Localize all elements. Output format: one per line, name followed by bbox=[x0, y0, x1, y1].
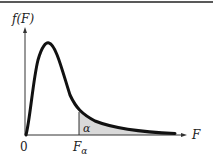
y-axis-label: f(F) bbox=[12, 13, 34, 25]
x-axis-label: F bbox=[192, 129, 200, 141]
density-curve bbox=[26, 43, 175, 135]
origin-tick-label: 0 bbox=[20, 141, 28, 153]
x-axis-arrow-icon bbox=[181, 133, 187, 137]
critical-value-label: Fα bbox=[73, 141, 87, 156]
critical-subscript: α bbox=[81, 146, 87, 156]
y-axis-arrow-icon bbox=[23, 27, 27, 33]
alpha-label: α bbox=[83, 123, 90, 134]
